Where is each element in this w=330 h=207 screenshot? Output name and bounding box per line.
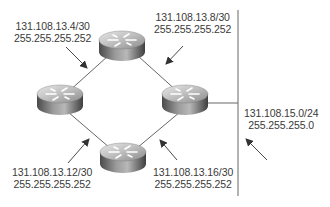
router-right-icon [162, 85, 208, 115]
label-lan: 131.108.15.0/24 255.255.255.0 [244, 107, 318, 131]
label-top-left: 131.108.13.4/30 255.255.255.252 [14, 20, 91, 44]
arrow-top-left [66, 47, 87, 68]
router-bottom-icon [100, 143, 146, 173]
router-top-icon [99, 31, 145, 61]
arrow-lan [246, 139, 267, 160]
link-left-top [68, 56, 108, 92]
arrow-bottom-right [160, 140, 177, 160]
label-bottom-right: 131.108.13.16/30 255.255.255.252 [153, 166, 233, 190]
label-bottom-left: 131.108.13.12/30 255.255.255.252 [12, 166, 92, 190]
network-address: 131.108.15.0/24 [244, 107, 318, 119]
network-address: 131.108.13.4/30 [14, 20, 91, 32]
network-address: 131.108.13.12/30 [12, 166, 92, 178]
network-address: 131.108.13.16/30 [153, 166, 233, 178]
subnet-mask: 255.255.255.252 [14, 32, 91, 44]
link-left-bottom [68, 112, 110, 148]
subnet-mask: 255.255.255.252 [154, 23, 231, 35]
link-bottom-right [137, 112, 180, 148]
router-left-icon [37, 85, 83, 115]
subnet-mask: 255.255.255.252 [153, 178, 233, 190]
network-address: 131.108.13.8/30 [154, 11, 231, 23]
arrow-top-right [166, 46, 183, 64]
label-top-right: 131.108.13.8/30 255.255.255.252 [154, 11, 231, 35]
arrow-bottom-left [68, 139, 89, 163]
subnet-mask: 255.255.255.252 [12, 178, 92, 190]
subnet-mask: 255.255.255.0 [244, 119, 318, 131]
